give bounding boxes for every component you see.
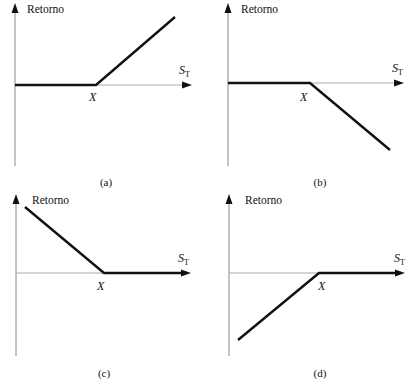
strike-label: X <box>318 280 325 292</box>
y-axis-label: Retorno <box>32 195 69 207</box>
panel-b-plot <box>208 0 416 192</box>
x-axis-label: ST <box>178 252 189 267</box>
caption-b: (b) <box>300 176 340 188</box>
strike-label: X <box>89 91 96 103</box>
strike-label: X <box>97 280 104 292</box>
x-axis-arrow-icon <box>394 80 404 87</box>
x-axis-arrow-icon <box>182 82 192 89</box>
y-axis-label: Retorno <box>241 4 278 16</box>
payoff-line <box>25 207 183 273</box>
strike-label: X <box>300 91 307 103</box>
payoff-line <box>228 83 390 150</box>
panel-a-plot <box>0 0 208 192</box>
panel-d: Retorno ST X (d) <box>208 192 416 384</box>
caption-d: (d) <box>300 367 340 379</box>
x-axis-label: ST <box>394 252 405 267</box>
panel-a: Retorno ST X (a) <box>0 0 208 192</box>
y-axis-arrow-icon <box>226 194 233 204</box>
x-axis-label: ST <box>392 62 403 77</box>
panel-b: Retorno ST X (b) <box>208 0 416 192</box>
y-axis-label: Retorno <box>245 195 282 207</box>
y-axis-arrow-icon <box>225 3 232 13</box>
x-axis-label: ST <box>179 64 190 79</box>
caption-c: (c) <box>84 367 124 379</box>
payoff-line <box>15 17 175 85</box>
panel-d-plot <box>208 192 416 385</box>
y-axis-arrow-icon <box>12 3 19 13</box>
y-axis-arrow-icon <box>13 194 20 204</box>
panel-c: Retorno ST X (c) <box>0 192 208 384</box>
caption-a: (a) <box>86 176 126 188</box>
y-axis-label: Retorno <box>27 4 64 16</box>
